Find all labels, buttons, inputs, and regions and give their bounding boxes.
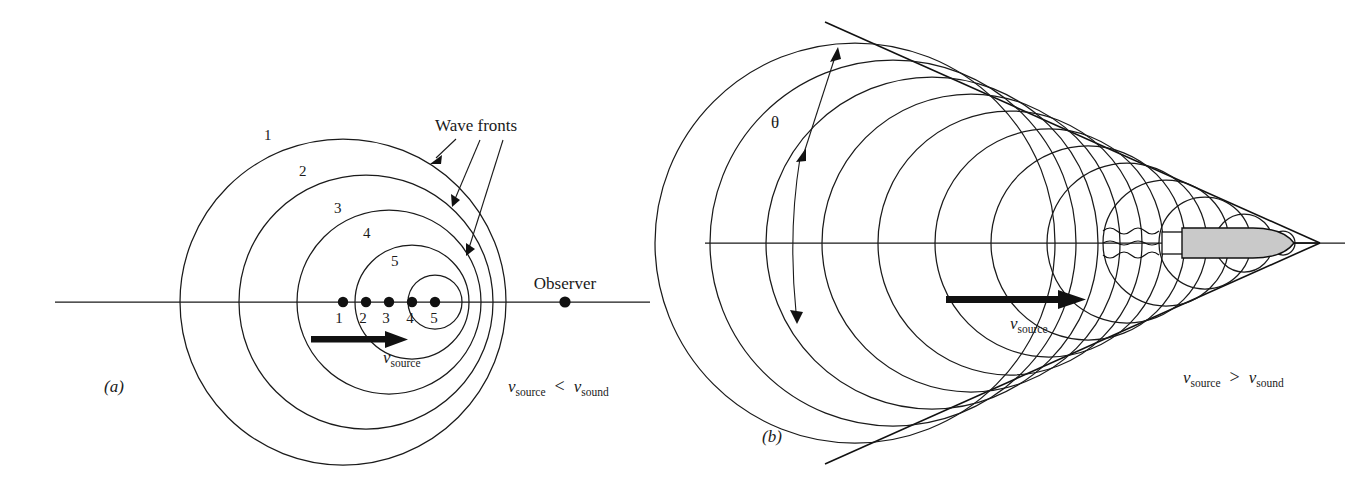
- wave-front-number-2: 2: [299, 163, 307, 179]
- wave-front-number-5: 5: [391, 253, 399, 269]
- source-dot-4: [407, 297, 417, 307]
- source-position-number-3: 3: [382, 310, 390, 326]
- panel-a-condition-operator: <: [546, 376, 574, 396]
- panel-b-condition-right-subscript: sound: [1256, 377, 1284, 389]
- craft-tail-block: [1162, 232, 1184, 254]
- panel-b-velocity-subscript: source: [1018, 323, 1048, 335]
- source-dot-3: [384, 297, 394, 307]
- observer-dot: [559, 296, 570, 307]
- panel-b-tag: (b): [762, 427, 782, 446]
- source-position-number-5: 5: [430, 310, 438, 326]
- panel-a-velocity-subscript: source: [391, 357, 421, 369]
- wave-front-number-3: 3: [334, 200, 342, 216]
- source-dot-2: [361, 297, 371, 307]
- source-position-number-1: 1: [335, 310, 343, 326]
- panel-b-condition-operator: >: [1221, 367, 1249, 387]
- source-position-number-4: 4: [406, 310, 414, 326]
- source-dot-1: [338, 297, 348, 307]
- wave-fronts-label: Wave fronts: [435, 116, 517, 135]
- panel-a-condition-right-subscript: sound: [581, 386, 609, 398]
- theta-label: θ: [771, 113, 779, 132]
- panel-a-condition-left-subscript: source: [516, 386, 546, 398]
- figure-background: [0, 0, 1347, 493]
- figure-root: 1 2 3 4 5 1 2 3 4 5 Observer vsource Wav…: [0, 0, 1347, 493]
- doppler-shockwave-figure: 1 2 3 4 5 1 2 3 4 5 Observer vsource Wav…: [0, 0, 1347, 493]
- wave-front-number-1: 1: [264, 127, 272, 143]
- source-position-number-2: 2: [359, 310, 367, 326]
- panel-a-tag: (a): [104, 377, 124, 396]
- craft-body: [1182, 228, 1294, 258]
- wave-front-number-4: 4: [363, 225, 371, 241]
- source-dot-5: [430, 297, 440, 307]
- observer-label: Observer: [534, 274, 597, 293]
- panel-b-condition-left-subscript: source: [1191, 377, 1221, 389]
